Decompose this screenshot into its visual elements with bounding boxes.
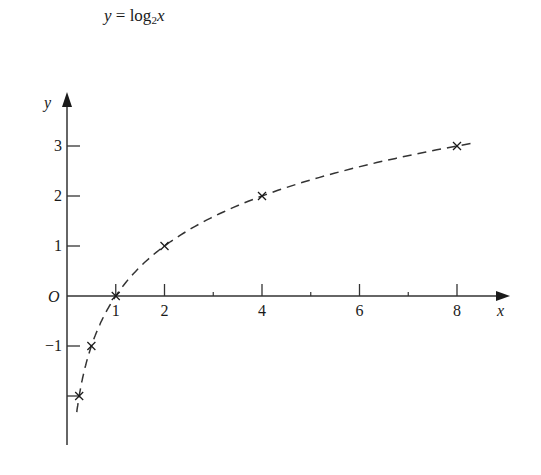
log-graph: xyO12468−1123 [0, 0, 541, 475]
axes [62, 92, 510, 445]
y-axis-label: y [42, 94, 52, 112]
x-marker-icon [258, 192, 266, 200]
y-tick-label: 1 [54, 237, 62, 254]
log-curve [77, 143, 472, 412]
data-point-markers [75, 142, 461, 400]
x-tick-label: 8 [453, 302, 461, 319]
x-marker-icon [161, 242, 169, 250]
x-tick-label: 4 [258, 302, 266, 319]
x-marker-icon [87, 342, 95, 350]
origin-label: O [48, 288, 60, 305]
ticks [67, 146, 457, 396]
x-tick-label: 1 [112, 302, 120, 319]
x-tick-label: 6 [356, 302, 364, 319]
y-tick-label: 3 [54, 137, 62, 154]
x-tick-label: 2 [161, 302, 169, 319]
x-axis-arrow-icon [496, 291, 510, 301]
y-tick-label: 2 [54, 187, 62, 204]
y-axis-arrow-icon [62, 92, 72, 107]
x-axis-label: x [496, 302, 504, 319]
tick-labels: xyO12468−1123 [42, 94, 504, 354]
y-tick-label: −1 [45, 337, 62, 354]
